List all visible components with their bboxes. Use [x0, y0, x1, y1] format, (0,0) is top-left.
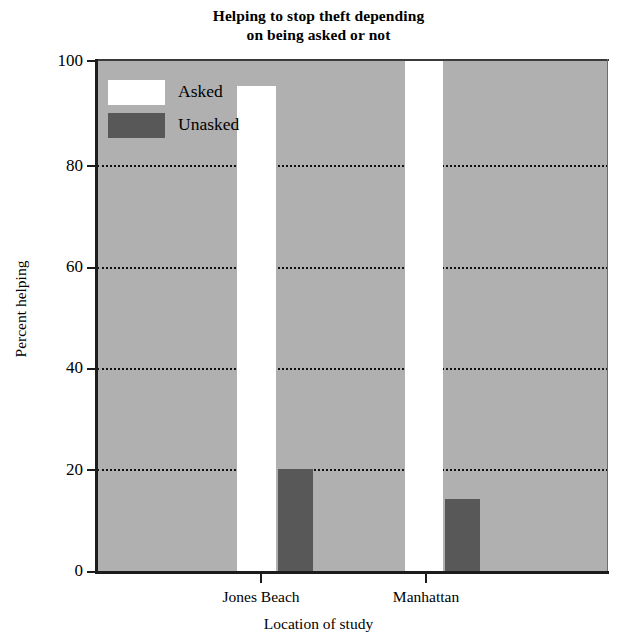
y-axis-title: Percent helping [12, 224, 30, 394]
plot-right-border [607, 59, 609, 573]
bar-manhattan-unasked [445, 499, 480, 573]
y-tick-label-0: 0 [35, 562, 83, 579]
gridline-20 [97, 469, 608, 471]
gridline-40 [97, 368, 608, 370]
y-tick-label-20: 20 [35, 461, 83, 478]
y-tick-mark-20 [87, 469, 96, 471]
y-tick-label-100: 100 [35, 52, 83, 69]
x-axis-line [95, 571, 609, 574]
y-tick-mark-80 [87, 165, 96, 167]
legend-swatch-asked-icon [108, 80, 165, 105]
x-tick-label-jones-beach: Jones Beach [171, 588, 351, 606]
legend-item-unasked: Unasked [108, 111, 298, 144]
chart-title: Helping to stop theft depending on being… [0, 6, 637, 44]
y-tick-mark-60 [87, 267, 96, 269]
legend-label-asked: Asked [178, 78, 223, 104]
y-tick-mark-40 [87, 368, 96, 370]
chart-legend: Asked Unasked [108, 78, 298, 144]
plot-top-border [95, 59, 609, 61]
chart-figure: Helping to stop theft depending on being… [0, 0, 637, 642]
bar-jones-beach-asked [237, 86, 276, 572]
legend-swatch-unasked-icon [108, 113, 165, 138]
y-tick-mark-100 [87, 60, 96, 62]
x-tick-label-manhattan: Manhattan [336, 588, 516, 606]
gridline-60 [97, 267, 608, 269]
y-tick-labels: 100 80 60 40 20 0 [30, 0, 83, 642]
y-tick-label-60: 60 [35, 258, 83, 275]
y-tick-label-80: 80 [35, 157, 83, 174]
legend-label-unasked: Unasked [178, 111, 239, 137]
x-tick-mark-jones-beach [260, 573, 262, 583]
y-tick-label-40: 40 [35, 359, 83, 376]
gridline-80 [97, 165, 608, 167]
chart-title-line-2: on being asked or not [0, 25, 637, 44]
bar-jones-beach-unasked [278, 469, 313, 573]
x-tick-mark-manhattan [425, 573, 427, 583]
y-axis-line [95, 59, 98, 573]
legend-item-asked: Asked [108, 78, 298, 111]
bar-manhattan-asked [405, 61, 443, 572]
chart-title-line-1: Helping to stop theft depending [0, 6, 637, 25]
x-axis-title: Location of study [0, 615, 637, 633]
y-tick-mark-0 [87, 571, 96, 573]
